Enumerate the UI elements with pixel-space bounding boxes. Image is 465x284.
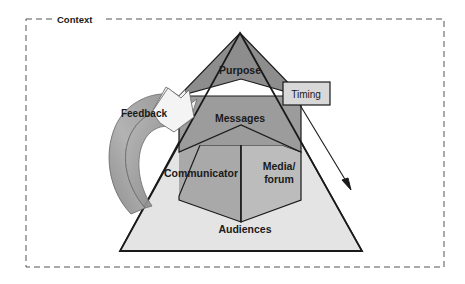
timing-arrow-head — [342, 178, 351, 190]
label-purpose: Purpose — [219, 64, 261, 76]
label-messages: Messages — [215, 112, 265, 124]
diagram-canvas: Context Purpose Messages — [0, 0, 465, 284]
label-communicator: Communicator — [164, 167, 238, 179]
context-label: Context — [57, 14, 93, 25]
label-media-forum-line2: forum — [264, 173, 294, 185]
label-audiences: Audiences — [218, 223, 271, 235]
label-feedback: Feedback — [121, 108, 168, 119]
label-timing: Timing — [291, 89, 321, 100]
pyramid: Purpose Messages Communicator Media/ for… — [120, 33, 362, 251]
communication-pyramid-diagram: Context Purpose Messages — [0, 0, 465, 284]
label-media-forum-line1: Media/ — [263, 160, 296, 172]
